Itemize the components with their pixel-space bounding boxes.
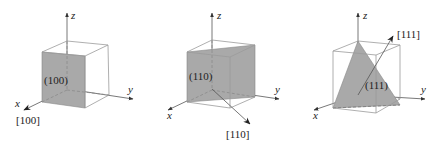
y-axis-label: y	[420, 83, 426, 95]
plane-111	[333, 41, 400, 108]
cube-edges	[333, 41, 400, 55]
plane-label-111: (111)	[365, 79, 388, 92]
z-axis-label: z	[70, 9, 76, 21]
z-axis-label: z	[362, 9, 368, 21]
x-axis-label: x	[14, 97, 20, 109]
direction-label-111: [111]	[397, 28, 420, 40]
x-axis-label: x	[312, 109, 318, 121]
panel-110: z y x (110) [110]	[166, 9, 280, 140]
z-axis-label: z	[216, 9, 222, 21]
miller-indices-figure: z y x (100) [100] z y x	[0, 0, 443, 148]
plane-label-110: (110)	[189, 70, 213, 83]
panel-111: z y x (111) [111]	[312, 9, 426, 121]
panel-100: z y x (100) [100]	[14, 9, 133, 126]
plane-label-100: (100)	[44, 74, 68, 87]
x-axis-label: x	[166, 109, 172, 121]
y-axis-label: y	[274, 83, 280, 95]
y-axis-label: y	[127, 83, 133, 95]
direction-label-110: [110]	[226, 128, 249, 140]
direction-label-100: [100]	[16, 114, 40, 126]
